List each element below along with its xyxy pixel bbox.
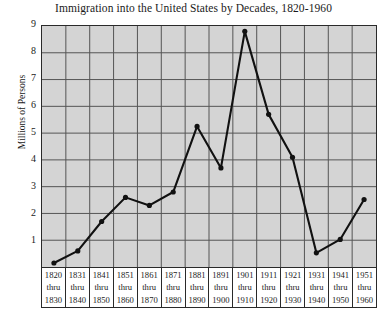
x-tick-label-line: 1920 — [260, 294, 277, 306]
x-tick-label-line: 1921 — [284, 269, 301, 281]
y-tick-label: 5 — [14, 126, 36, 137]
x-tick-label-line: 1830 — [45, 294, 62, 306]
x-tick-label-line: 1860 — [117, 294, 134, 306]
x-tick-label-line: thru — [286, 281, 300, 293]
x-tick-label-line: 1880 — [164, 294, 181, 306]
y-tick-label: 8 — [14, 45, 36, 56]
x-tick-label-line: thru — [238, 281, 252, 293]
x-tick-label-line: 1931 — [308, 269, 325, 281]
x-tick-label-cell: 1881thru1890 — [186, 268, 210, 307]
x-tick-label-line: 1871 — [164, 269, 181, 281]
y-tick-label: 9 — [14, 18, 36, 29]
x-tick-label-cell: 1911thru1920 — [257, 268, 281, 307]
data-point-marker — [171, 189, 176, 194]
data-point-marker — [242, 29, 247, 34]
data-point-marker — [361, 197, 366, 202]
x-tick-label-line: 1930 — [284, 294, 301, 306]
x-tick-label-cell: 1871thru1880 — [162, 268, 186, 307]
x-tick-label-cell: 1831thru1840 — [66, 268, 90, 307]
data-point-marker — [266, 112, 271, 117]
x-tick-label-line: 1891 — [212, 269, 229, 281]
data-point-marker — [99, 219, 104, 224]
x-tick-label-line: 1850 — [93, 294, 110, 306]
x-tick-label-line: 1831 — [69, 269, 86, 281]
x-tick-label-line: 1900 — [212, 294, 229, 306]
y-tick-label: 3 — [14, 180, 36, 191]
x-tick-label-line: 1840 — [69, 294, 86, 306]
chart-page: Immigration into the United States by De… — [0, 0, 387, 314]
data-point-marker — [218, 165, 223, 170]
x-tick-label-line: thru — [214, 281, 228, 293]
chart-title: Immigration into the United States by De… — [0, 2, 387, 14]
data-point-marker — [290, 155, 295, 160]
x-tick-label-cell: 1851thru1860 — [114, 268, 138, 307]
x-tick-label-line: thru — [358, 281, 372, 293]
x-tick-label-cell: 1931thru1940 — [305, 268, 329, 307]
x-tick-label-cell: 1820thru1830 — [42, 268, 66, 307]
x-tick-label-line: thru — [47, 281, 61, 293]
y-tick-label: 6 — [14, 99, 36, 110]
x-tick-label-line: 1901 — [236, 269, 253, 281]
x-tick-label-cell: 1941thru1950 — [329, 268, 353, 307]
data-point-marker — [338, 237, 343, 242]
x-tick-label-line: thru — [70, 281, 84, 293]
x-tick-label-cell: 1841thru1850 — [90, 268, 114, 307]
x-tick-label-cell: 1921thru1930 — [281, 268, 305, 307]
x-tick-label-line: 1820 — [45, 269, 62, 281]
x-tick-label-line: 1910 — [236, 294, 253, 306]
x-tick-label-line: thru — [262, 281, 276, 293]
x-tick-label-line: 1890 — [188, 294, 205, 306]
data-point-marker — [75, 248, 80, 253]
data-point-marker — [314, 250, 319, 255]
x-tick-label-line: thru — [310, 281, 324, 293]
x-tick-label-line: 1870 — [141, 294, 158, 306]
x-tick-label-line: thru — [190, 281, 204, 293]
x-tick-label-line: 1960 — [356, 294, 373, 306]
x-tick-label-line: 1911 — [260, 269, 277, 281]
x-tick-label-line: 1861 — [141, 269, 158, 281]
x-tick-label-line: 1940 — [308, 294, 325, 306]
data-point-marker — [123, 195, 128, 200]
y-tick-label: 2 — [14, 207, 36, 218]
x-tick-label-line: 1951 — [356, 269, 373, 281]
x-tick-label-cell: 1901thru1910 — [233, 268, 257, 307]
x-tick-label-line: thru — [142, 281, 156, 293]
x-tick-label-line: thru — [334, 281, 348, 293]
x-tick-label-line: 1881 — [188, 269, 205, 281]
x-axis-label-strip: 1820thru18301831thru18401841thru18501851… — [41, 268, 377, 308]
data-point-marker — [51, 260, 56, 265]
data-point-marker — [147, 203, 152, 208]
x-tick-label-line: 1941 — [332, 269, 349, 281]
plot-area — [41, 25, 377, 268]
x-tick-label-line: 1851 — [117, 269, 134, 281]
x-tick-label-line: thru — [118, 281, 132, 293]
x-tick-label-line: thru — [94, 281, 108, 293]
x-tick-label-cell: 1891thru1900 — [209, 268, 233, 307]
x-tick-label-line: 1950 — [332, 294, 349, 306]
x-tick-label-line: thru — [166, 281, 180, 293]
x-tick-label-line: 1841 — [93, 269, 110, 281]
y-tick-label: 7 — [14, 72, 36, 83]
y-tick-label: 1 — [14, 234, 36, 245]
data-point-marker — [194, 124, 199, 129]
x-tick-label-cell: 1861thru1870 — [138, 268, 162, 307]
line-chart-svg — [42, 26, 376, 267]
x-tick-label-cell: 1951thru1960 — [353, 268, 376, 307]
y-tick-label: 4 — [14, 153, 36, 164]
